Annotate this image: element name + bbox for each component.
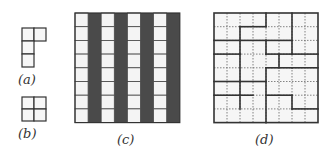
panel-b-label: (b) — [18, 126, 36, 141]
panel-a-l-tetromino — [22, 28, 46, 67]
panel-b-square-tetromino — [22, 97, 46, 121]
figure: (a) (b) (c) (d) — [0, 0, 328, 153]
panel-c-striped-board — [75, 13, 180, 123]
panel-c-label: (c) — [117, 132, 134, 147]
panel-a-label: (a) — [18, 72, 36, 87]
panel-d-label: (d) — [255, 132, 273, 147]
panel-d-tiled-board — [214, 13, 318, 123]
